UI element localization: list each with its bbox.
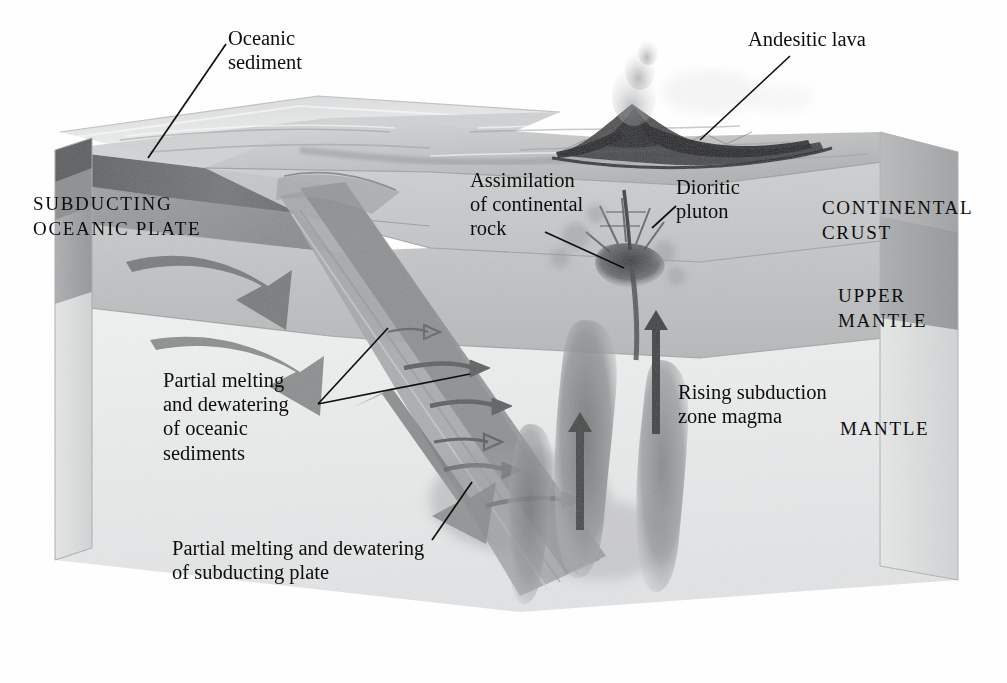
label-continental-crust: CONTINENTAL CRUST	[822, 196, 973, 245]
subduction-block-diagram	[0, 0, 1007, 683]
label-partial-melting-subducting-plate: Partial melting and dewatering of subduc…	[172, 536, 424, 584]
label-upper-mantle: UPPER MANTLE	[838, 284, 927, 333]
label-andesitic-lava: Andesitic lava	[748, 27, 866, 51]
label-mantle: MANTLE	[840, 418, 929, 440]
label-partial-melting-oceanic-sediments: Partial melting and dewatering of oceani…	[163, 368, 289, 465]
label-assimilation-of-continental-rock: Assimilation of continental rock	[470, 168, 583, 241]
label-dioritic-pluton: Dioritic pluton	[676, 175, 740, 223]
label-subducting-oceanic-plate: SUBDUCTING OCEANIC PLATE	[33, 192, 201, 241]
figure-canvas: Oceanic sediment Andesitic lava Assimila…	[0, 0, 1007, 683]
label-rising-subduction-zone-magma: Rising subduction zone magma	[678, 380, 827, 428]
ash-plume	[612, 39, 814, 126]
label-oceanic-sediment: Oceanic sediment	[228, 26, 302, 74]
